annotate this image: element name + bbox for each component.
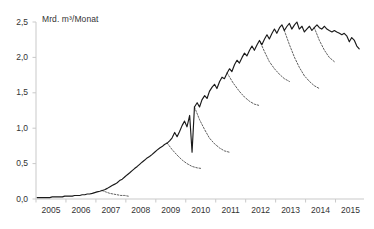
y-tick-label: 2,5 — [2, 17, 28, 27]
y-tick-label: 2,0 — [2, 52, 28, 62]
x-tick-label: 2009 — [154, 205, 188, 215]
x-tick-label: 2013 — [274, 205, 308, 215]
x-tick-label: 2010 — [184, 205, 218, 215]
x-tick-label: 2005 — [34, 205, 68, 215]
x-tick-label: 2006 — [64, 205, 98, 215]
chart-plot-area — [0, 0, 374, 229]
series-line-5 — [259, 40, 289, 81]
x-tick-label: 2015 — [334, 205, 368, 215]
y-tick-label: 0,5 — [2, 158, 28, 168]
gas-volume-chart: Mrd. m³/Monat 0,00,51,01,52,02,5 2005200… — [0, 0, 374, 229]
x-tick-label: 2014 — [304, 205, 338, 215]
y-tick-label: 1,5 — [2, 87, 28, 97]
x-tick-label: 2007 — [94, 205, 128, 215]
x-tick-label: 2011 — [214, 205, 248, 215]
axis-lines — [33, 22, 365, 203]
y-axis-unit-label: Mrd. m³/Monat — [42, 14, 99, 24]
series-line-2 — [167, 143, 202, 168]
series-line-0 — [37, 22, 359, 198]
x-tick-label: 2012 — [244, 205, 278, 215]
series-line-1 — [102, 191, 128, 197]
series-line-3 — [194, 107, 229, 152]
data-series-layer — [37, 22, 359, 198]
x-tick-label: 2008 — [124, 205, 158, 215]
series-line-7 — [314, 28, 334, 62]
series-line-6 — [284, 31, 319, 89]
series-line-4 — [227, 73, 259, 106]
y-tick-label: 1,0 — [2, 123, 28, 133]
y-tick-label: 0,0 — [2, 194, 28, 204]
